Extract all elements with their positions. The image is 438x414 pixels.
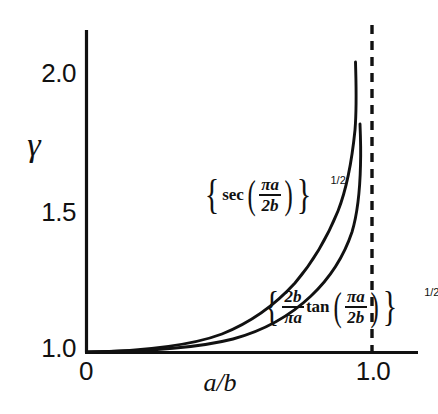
function-name-tan: tan [305, 298, 331, 315]
exponent-one-half: 1/2 [331, 175, 346, 186]
y-tick-label-2.0: 2.0 [10, 60, 76, 86]
fraction-denominator: 2b [260, 196, 281, 214]
paren-open: ( [333, 291, 341, 322]
x-tick-label-1.0: 1.0 [342, 358, 404, 384]
function-name-sec: sec [221, 186, 245, 203]
x-axis-title: a/b [168, 370, 272, 396]
brace-open: { [205, 178, 220, 212]
secant-curve-label: { sec ( πa 2b ) } 1/2 [202, 176, 330, 214]
brace-close: } [383, 290, 398, 324]
fraction-denominator: 2b [345, 308, 366, 326]
brace-close: } [297, 178, 312, 212]
y-tick-label-1.5: 1.5 [10, 199, 76, 225]
fraction-pia-over-2b: πa 2b [258, 176, 282, 214]
fraction-numerator: πa [345, 288, 367, 306]
fraction-pia-over-2b: πa 2b [344, 288, 368, 326]
paren-close: ) [285, 179, 293, 210]
fraction-numerator: 2b [283, 288, 304, 306]
paren-close: ) [370, 291, 378, 322]
y-axis-title: γ [12, 128, 56, 162]
exponent-one-half: 1/2 [424, 287, 438, 298]
x-tick-label-0: 0 [56, 358, 116, 384]
paren-open: ( [247, 179, 255, 210]
chart-figure: γ 2.0 1.5 1.0 0 1.0 a/b { sec ( πa 2b ) … [0, 0, 438, 414]
fraction-denominator: πa [282, 308, 304, 326]
fraction-2b-over-pia: 2b πa [281, 288, 305, 326]
tangent-curve-label: { 2b πa tan ( πa 2b ) } 1/2 [262, 288, 415, 326]
brace-open: { [265, 290, 280, 324]
fraction-numerator: πa [259, 176, 281, 194]
